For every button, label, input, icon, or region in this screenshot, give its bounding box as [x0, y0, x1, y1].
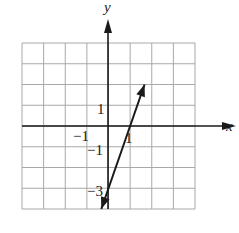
- y-tick-label-neg1: −1: [87, 142, 103, 158]
- y-axis-label: y: [102, 0, 111, 15]
- y-tick-label-neg3: −3: [87, 183, 103, 199]
- coordinate-graph: x y −1 1 1 −1 −3: [0, 0, 239, 233]
- line-arrow-top-icon: [136, 85, 145, 98]
- y-tick-label-1: 1: [97, 101, 105, 117]
- axes: [22, 29, 232, 209]
- x-axis-label: x: [225, 118, 233, 134]
- y-axis-arrow-icon: [104, 19, 112, 33]
- x-tick-label-1: 1: [125, 130, 133, 146]
